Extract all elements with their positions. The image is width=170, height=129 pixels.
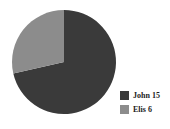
- legend-label-elis: Elis 6: [133, 105, 152, 114]
- legend-swatch-john-icon: [120, 91, 129, 100]
- chart-legend: John 15 Elis 6: [120, 88, 170, 116]
- legend-swatch-elis-icon: [120, 105, 129, 114]
- legend-label-john: John 15: [133, 91, 160, 100]
- pie-slices: [12, 10, 116, 114]
- legend-item-john[interactable]: John 15: [120, 88, 170, 102]
- legend-item-elis[interactable]: Elis 6: [120, 102, 170, 116]
- pie-chart-figure: John 15 Elis 6: [0, 0, 170, 129]
